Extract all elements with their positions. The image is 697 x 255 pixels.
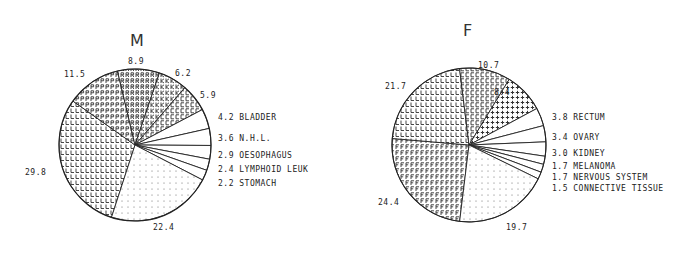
legend-m-nhl: 3.6 N.H.L. [218, 134, 271, 143]
value-label-19-7: 19.7 [506, 223, 527, 232]
legend-f-nervous-system: 1.7 NERVOUS SYSTEM [552, 173, 648, 182]
legend-f-rectum: 3.8 RECTUM [552, 113, 605, 122]
value-label-29-8: 29.8 [25, 168, 46, 177]
value-label-22-4: 22.4 [153, 223, 174, 232]
legend-m-bladder: 4.2 BLADDER [218, 113, 276, 122]
pie-chart-f: F 10.7 21.7 8.4 24.4 19.7 3.8 RECTUM 3.4… [378, 21, 664, 232]
chart-title-m: M [130, 31, 144, 50]
legend-f-melanoma: 1.7 MELANOMA [552, 162, 616, 171]
legend-f-ovary: 3.4 OVARY [552, 133, 600, 142]
pie-slice-24-4 [392, 139, 469, 222]
legend-f-kidney: 3.0 KIDNEY [552, 149, 605, 158]
legend-m-oesophagus: 2.9 OESOPHAGUS [218, 151, 292, 160]
value-label-21-7: 21.7 [385, 82, 406, 91]
value-label-8-4: 8.4 [494, 88, 510, 97]
value-label-5-9: 5.9 [200, 91, 216, 100]
pie-chart-m: M 8.9 11.5 6.2 5.9 29.8 22.4 4.2 BLADDER… [25, 31, 308, 232]
charts-canvas: M 8.9 11.5 6.2 5.9 29.8 22.4 4.2 BLADDER… [0, 0, 697, 255]
value-label-11-5: 11.5 [64, 70, 85, 79]
pie-f-slices [392, 68, 546, 222]
pie-slice-21-7 [392, 69, 469, 145]
legend-m-lymphoid-leuk: 2.4 LYMPHOID LEUK [218, 165, 308, 174]
value-label-10-7: 10.7 [478, 61, 499, 70]
legend-f-connective-tissue: 1.5 CONNECTIVE TISSUE [552, 184, 664, 193]
value-label-24-4: 24.4 [378, 198, 399, 207]
chart-title-f: F [463, 21, 472, 40]
value-label-6-2: 6.2 [175, 69, 191, 78]
pie-m-slices [59, 69, 211, 221]
legend-m-stomach: 2.2 STOMACH [218, 179, 276, 188]
value-label-8-9: 8.9 [128, 57, 144, 66]
